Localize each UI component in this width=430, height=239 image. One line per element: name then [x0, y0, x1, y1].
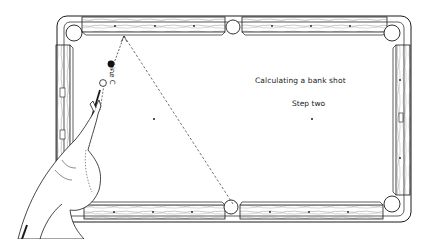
- pocket-top-left: [66, 25, 82, 41]
- table-frame: [57, 16, 411, 222]
- pocket-top-middle: [226, 20, 240, 34]
- shot-lines: [100, 36, 233, 204]
- pool-table-diagram: [0, 0, 430, 239]
- foot-spot: [311, 118, 313, 120]
- bank-line: [124, 36, 233, 204]
- right-rail: [393, 45, 410, 195]
- line-c-label: Line C: [108, 63, 116, 85]
- bottom-left-rail: [84, 202, 225, 219]
- cue-ball: [100, 80, 107, 87]
- bottom-right-rail: [240, 202, 383, 219]
- step-label: Step two: [292, 99, 325, 108]
- pocket-bottom-middle: [224, 200, 238, 214]
- diagram-title: Calculating a bank shot: [255, 76, 346, 85]
- top-right-rail: [242, 17, 387, 35]
- top-left-rail: [82, 17, 225, 35]
- pocket-top-right: [384, 25, 400, 41]
- pockets: [66, 20, 400, 214]
- pocket-bottom-right: [384, 196, 400, 212]
- head-spot: [153, 118, 155, 120]
